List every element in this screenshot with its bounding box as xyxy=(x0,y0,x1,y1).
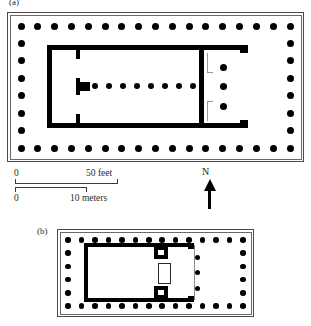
column-b-top-2 xyxy=(92,237,98,243)
column-a-left-5 xyxy=(18,110,25,117)
column-a-bottom-16 xyxy=(287,145,294,152)
column-a-left-2 xyxy=(18,57,25,64)
naos-column-a-6 xyxy=(176,83,182,89)
cella-b xyxy=(84,243,201,302)
east-porch-column-a-1 xyxy=(220,83,227,90)
column-b-top-6 xyxy=(146,237,152,243)
column-b-left-4 xyxy=(65,290,71,296)
north-arrow-label: N xyxy=(202,166,209,177)
column-a-bottom-11 xyxy=(202,145,209,152)
naos-column-a-3 xyxy=(134,83,140,89)
column-b-top-5 xyxy=(133,237,139,243)
column-b-top-0 xyxy=(65,237,71,243)
anta-north-inner-a xyxy=(76,50,80,59)
column-b-right-2 xyxy=(240,264,246,270)
naos-column-a-0 xyxy=(92,83,98,89)
column-a-top-16 xyxy=(287,23,294,30)
scale-tick-feet-start xyxy=(15,179,16,184)
east-porch-column-a-2 xyxy=(220,103,227,110)
cella-a xyxy=(47,45,247,128)
scale-bar-rule-meters xyxy=(15,187,87,188)
column-a-top-3 xyxy=(68,23,75,30)
east-porch-column-b-2 xyxy=(195,286,200,291)
column-a-top-7 xyxy=(135,23,142,30)
east-porch-column-a-0 xyxy=(220,64,227,71)
north-arrow-shaft xyxy=(208,190,211,209)
scale-feet-start-label: 0 xyxy=(14,168,19,178)
column-b-top-3 xyxy=(106,237,112,243)
column-b-bottom-3 xyxy=(106,303,112,309)
scale-bar: 0 50 feet 0 10 meters xyxy=(14,168,136,210)
naos-column-a-5 xyxy=(162,83,168,89)
east-porch-column-b-1 xyxy=(195,270,200,275)
panel-label-a: (a) xyxy=(9,0,19,7)
column-a-bottom-0 xyxy=(18,145,25,152)
scale-bar-rule-feet xyxy=(15,183,118,184)
column-a-right-4 xyxy=(287,92,294,99)
column-a-bottom-10 xyxy=(186,145,193,152)
column-b-left-2 xyxy=(65,264,71,270)
east-architrave-south-a xyxy=(203,123,247,128)
column-a-right-6 xyxy=(287,127,294,134)
column-a-right-2 xyxy=(287,57,294,64)
pronaos-outline-a xyxy=(207,53,208,73)
column-b-top-9 xyxy=(186,237,192,243)
column-a-left-3 xyxy=(18,75,25,82)
column-a-top-15 xyxy=(270,23,277,30)
column-a-left-4 xyxy=(18,92,25,99)
doorway-block-b xyxy=(158,263,171,284)
column-a-top-4 xyxy=(85,23,92,30)
column-a-top-8 xyxy=(152,23,159,30)
naos-wall-west-b xyxy=(84,243,88,302)
column-b-bottom-2 xyxy=(92,303,98,309)
column-a-right-1 xyxy=(287,40,294,47)
column-b-bottom-11 xyxy=(213,303,219,309)
column-b-right-4 xyxy=(240,290,246,296)
column-a-left-1 xyxy=(18,40,25,47)
east-porch-column-b-0 xyxy=(195,255,200,260)
pronaos-outline3-a xyxy=(207,72,213,73)
column-a-bottom-2 xyxy=(51,145,58,152)
column-a-bottom-5 xyxy=(102,145,109,152)
scale-tick-feet-end xyxy=(117,179,118,184)
column-a-top-14 xyxy=(253,23,260,30)
column-b-top-12 xyxy=(227,237,233,243)
scale-meters-start-label: 0 xyxy=(14,193,19,203)
column-a-bottom-12 xyxy=(219,145,226,152)
column-b-bottom-7 xyxy=(159,303,165,309)
column-a-top-6 xyxy=(118,23,125,30)
naos-wall-west-a xyxy=(47,45,52,128)
naos-column-a-2 xyxy=(120,83,126,89)
column-a-top-9 xyxy=(169,23,176,30)
anta-meander-north-cap-b xyxy=(158,247,166,250)
column-a-top-5 xyxy=(102,23,109,30)
column-a-bottom-7 xyxy=(135,145,142,152)
column-a-bottom-8 xyxy=(152,145,159,152)
temple-plan-b xyxy=(57,229,254,317)
column-b-bottom-6 xyxy=(146,303,152,309)
naos-wall-south-b xyxy=(84,298,176,302)
naos-column-a-4 xyxy=(148,83,154,89)
column-b-bottom-13 xyxy=(240,303,246,309)
column-a-top-11 xyxy=(202,23,209,30)
scale-tick-meters-start xyxy=(15,187,16,192)
column-a-bottom-1 xyxy=(34,145,41,152)
scale-meters-end-label: 10 meters xyxy=(70,193,107,203)
panel-label-b: (b) xyxy=(37,226,48,236)
column-a-top-13 xyxy=(236,23,243,30)
column-b-top-1 xyxy=(79,237,85,243)
column-a-top-12 xyxy=(219,23,226,30)
column-b-right-1 xyxy=(240,250,246,256)
column-a-left-6 xyxy=(18,127,25,134)
anta-south-inner-a xyxy=(76,114,80,123)
column-b-top-7 xyxy=(159,237,165,243)
naos-column-a-1 xyxy=(106,83,112,89)
column-a-right-5 xyxy=(287,110,294,117)
column-a-bottom-3 xyxy=(68,145,75,152)
east-architrave-north-a xyxy=(203,45,247,50)
anta-meander-south-cap-b xyxy=(158,295,166,298)
column-b-top-4 xyxy=(119,237,125,243)
pronaos-outline4-a xyxy=(207,101,213,102)
column-a-bottom-6 xyxy=(118,145,125,152)
column-a-top-1 xyxy=(34,23,41,30)
